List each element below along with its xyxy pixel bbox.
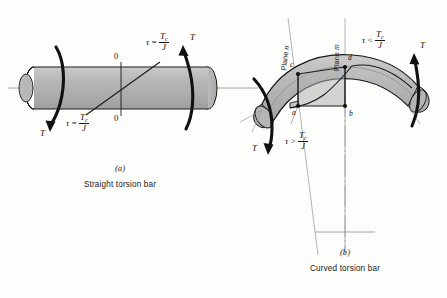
fraction-Tc-over-J: Tc J [79, 113, 89, 133]
tau-symbol: τ [362, 35, 365, 45]
point-label-a: a [292, 108, 296, 117]
point-label-b: b [349, 109, 353, 118]
fraction-denominator: J [300, 142, 306, 152]
curved-bar-inner-stress-formula: τ > Tc J [285, 131, 308, 151]
point-marker-b [343, 104, 347, 108]
curved-bar-outer-stress-formula: τ < Tc J [362, 30, 385, 50]
relation-symbol: > [291, 136, 296, 146]
panel-b-caption: Curved torsion bar [285, 264, 405, 273]
fraction-numerator: Tc [298, 131, 308, 141]
straight-bar-stress-formula-bottom: τ = Tc J [66, 113, 89, 133]
panel-a-letter: (a) [100, 163, 140, 173]
straight-bar-right-torque-label: T [190, 32, 195, 42]
relation-symbol: < [368, 35, 373, 45]
tau-symbol: τ [285, 136, 288, 146]
fraction-denominator: J [161, 43, 167, 53]
torsion-bar-figure: T T 0 0 τ = Tc J τ = Tc J (a) Straight t… [0, 0, 447, 298]
straight-bar-left-torque-label: T [40, 128, 45, 138]
plane-m-label: Plane m [332, 44, 341, 71]
fraction-numerator: Tc [79, 113, 89, 123]
neutral-axis-label-top: 0 [114, 51, 118, 61]
fraction-Tc-over-J: Tc J [159, 32, 169, 52]
point-marker-d [343, 65, 347, 69]
straight-bar-left-torque-arrowhead [46, 121, 56, 133]
panel-a-caption: Straight torsion bar [60, 180, 180, 189]
fraction-numerator: Tc [375, 30, 385, 40]
point-marker-c [296, 72, 300, 76]
fraction-numerator: Tc [159, 32, 169, 42]
point-label-d: d [348, 53, 352, 62]
neutral-axis-label-bottom: 0 [114, 113, 118, 123]
tau-symbol: τ [146, 37, 149, 47]
relation-symbol: = [72, 118, 77, 128]
curved-bar-right-torque-arrowhead [410, 53, 420, 65]
relation-symbol: = [152, 37, 157, 47]
curved-bar-left-torque-arrowhead [264, 143, 274, 155]
straight-bar-right-torque-arrowhead [179, 45, 189, 56]
curved-bar-right-torque-label: T [420, 40, 425, 50]
tau-symbol: τ [66, 118, 69, 128]
fraction-denominator: J [377, 41, 383, 51]
fraction-denominator: J [81, 124, 87, 134]
panel-b-letter: (b) [325, 247, 365, 257]
point-label-c: c [290, 60, 293, 69]
fraction-Tc-over-J: Tc J [298, 131, 308, 151]
straight-bar-stress-formula-top: τ = Tc J [146, 32, 169, 52]
curved-bar-left-torque-label: T [252, 143, 257, 153]
fraction-Tc-over-J: Tc J [375, 30, 385, 50]
curved-bar-group [228, 18, 430, 255]
section-element-face [298, 67, 345, 106]
straight-bar-left-lip [19, 74, 33, 102]
point-marker-a [296, 104, 300, 108]
